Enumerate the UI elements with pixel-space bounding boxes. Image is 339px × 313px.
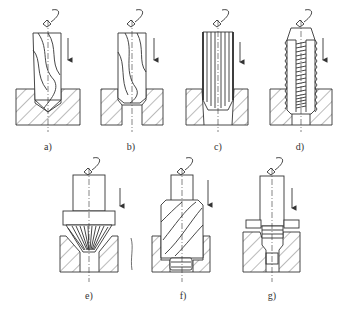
panel-label-e: e) <box>85 290 93 301</box>
rotation-arrow-icon <box>177 158 193 175</box>
counterbore-icon <box>161 175 203 270</box>
panel-label-c: c) <box>214 141 222 152</box>
panel-label-f: f) <box>180 290 187 301</box>
panel-g-spotfacing <box>243 158 300 282</box>
rotation-arrow-icon <box>213 10 229 27</box>
rotation-arrow-icon <box>43 10 59 27</box>
panel-d-tapping <box>270 10 332 132</box>
panel-label-a: a) <box>44 141 52 152</box>
machining-diagram <box>0 0 339 313</box>
panel-label-d: d) <box>296 141 304 152</box>
panel-label-b: b) <box>127 141 135 152</box>
rotation-arrow-icon <box>296 10 312 27</box>
rotation-arrow-icon <box>267 158 283 175</box>
rotation-arrow-icon <box>84 158 100 175</box>
spot-facer-icon <box>246 176 299 238</box>
panel-e-countersinking <box>60 158 132 282</box>
rotation-arrow-icon <box>127 10 143 27</box>
twist-drill-icon <box>33 33 61 112</box>
panel-b-core-drilling <box>101 10 163 132</box>
panel-a-drilling <box>16 10 80 132</box>
panel-c-reaming <box>186 10 248 132</box>
panel-label-g: g) <box>268 290 276 301</box>
panel-f-counterboring <box>152 158 210 282</box>
